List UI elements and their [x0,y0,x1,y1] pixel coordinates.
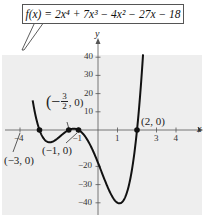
equation-box: f(x) = 2x⁴ + 7x³ − 4x² − 27x − 18 [22,4,184,24]
y-tick-label: −40 [78,198,92,207]
frac-den: 2 [62,102,67,111]
zero-label-neg1: (−1, 0) [42,145,72,156]
x-tick-label: 1 [115,134,120,143]
zero-label-2: (2, 0) [141,116,165,127]
x-axis-label: x [197,124,201,134]
zero-point [37,127,43,133]
x-tick-label: −4 [14,134,24,143]
y-tick-label: −30 [78,180,92,189]
plot-background [2,55,202,215]
y-tick-label: 10 [84,107,93,116]
y-tick-label: 20 [84,89,93,98]
y-tick-label: 40 [84,52,93,61]
zero-label-neg3-2: (− 3 2 , 0) [46,92,84,111]
y-tick-label: 30 [84,70,93,79]
y-axis-label: y [95,29,99,39]
fraction: 3 2 [61,92,68,111]
frac-prefix: (− [46,93,60,111]
zero-point [76,127,82,133]
x-tick-label: 3 [154,134,159,143]
zero-label-neg3: (−3, 0) [4,155,34,166]
zero-point [66,127,72,133]
x-tick-label: 4 [174,134,179,143]
x-tick-label: −1 [73,134,83,143]
function-plot [0,0,209,223]
frac-suffix: , 0) [69,96,84,108]
equation-text: f(x) = 2x⁴ + 7x³ − 4x² − 27x − 18 [25,8,180,20]
zero-point [134,127,140,133]
y-tick-label: −20 [78,161,92,170]
